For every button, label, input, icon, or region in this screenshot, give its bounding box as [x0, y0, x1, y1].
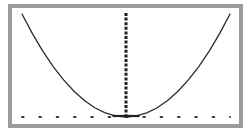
figure-root: Parabola opening upward with dotted hori…	[0, 0, 251, 135]
parabola-plot	[0, 0, 251, 135]
